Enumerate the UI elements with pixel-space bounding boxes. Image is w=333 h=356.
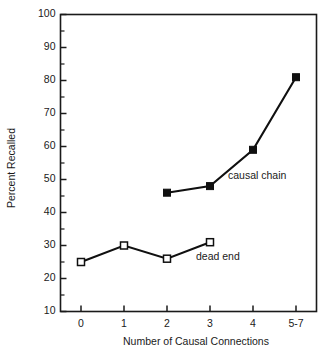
y-tick-label: 60 (44, 139, 56, 151)
x-tick-label: 1 (121, 317, 127, 329)
percent-recalled-line-chart: 102030405060708090100 012345-7 causal ch… (0, 0, 333, 356)
x-tick-label: 3 (207, 317, 213, 329)
series-annotation-dead-end: dead end (196, 250, 240, 262)
x-tick-label: 0 (78, 317, 84, 329)
y-tick-label: 90 (44, 40, 56, 52)
y-tick-label: 10 (44, 304, 56, 316)
data-point-marker (293, 74, 300, 81)
x-tick-label: 4 (250, 317, 256, 329)
data-point-marker (78, 259, 85, 266)
data-point-marker (164, 255, 171, 262)
data-point-marker (207, 183, 214, 190)
y-tick-label: 20 (44, 271, 56, 283)
y-tick-label: 30 (44, 238, 56, 250)
y-tick-label: 50 (44, 172, 56, 184)
y-tick-label: 40 (44, 205, 56, 217)
chart-container: 102030405060708090100 012345-7 causal ch… (0, 0, 333, 356)
data-point-marker (164, 189, 171, 196)
data-point-marker (250, 146, 257, 153)
y-tick-label: 70 (44, 106, 56, 118)
data-point-marker (121, 242, 128, 249)
y-tick-label: 100 (38, 7, 56, 19)
series-annotation-causal-chain: causal chain (228, 169, 287, 181)
x-axis-title: Number of Causal Connections (123, 335, 269, 347)
x-tick-label: 5-7 (288, 317, 303, 329)
x-tick-label: 2 (164, 317, 170, 329)
y-axis-title: Percent Recalled (5, 128, 17, 208)
y-tick-label: 80 (44, 73, 56, 85)
data-point-marker (207, 239, 214, 246)
